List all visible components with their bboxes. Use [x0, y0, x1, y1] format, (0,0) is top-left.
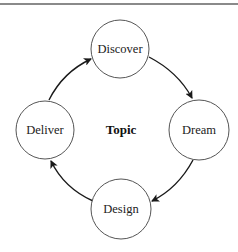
node-deliver: Deliver [16, 101, 74, 159]
node-label: Deliver [26, 123, 64, 137]
node-discover: Discover [91, 20, 149, 78]
arrow-discover-to-dream [149, 57, 192, 98]
node-design: Design [91, 179, 151, 239]
node-dream: Dream [169, 100, 229, 160]
arrow-design-to-deliver [51, 161, 93, 201]
node-label: Discover [97, 42, 143, 56]
center-topic-label: Topic [106, 122, 137, 137]
cycle-diagram: Discover Dream Design Deliver Topic [0, 0, 238, 252]
arrow-dream-to-design [152, 160, 193, 201]
node-label: Dream [182, 123, 216, 137]
node-label: Design [103, 202, 139, 216]
arrow-deliver-to-discover [49, 59, 91, 100]
